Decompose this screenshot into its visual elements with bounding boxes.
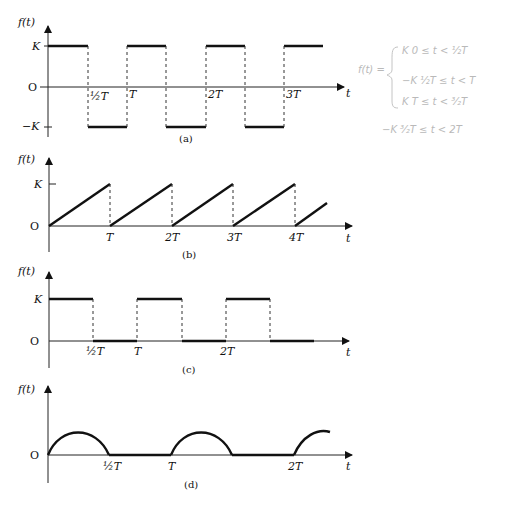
y-axis-label: f(t) <box>17 265 35 278</box>
x-axis-label: t <box>346 460 351 473</box>
y-axis-label: f(t) <box>17 153 35 166</box>
y-axis-label: f(t) <box>17 16 35 29</box>
neg-k-level-label: −K <box>22 120 40 133</box>
tick-label: 2T <box>164 231 181 244</box>
sawtooth-signal <box>49 184 327 226</box>
panel-a: f(t) t O K −K ½T T 2T 3T (a) <box>17 16 351 144</box>
annotation-lhs: f(t) = <box>358 64 385 75</box>
annotation-line: −K ³⁄₂T ≤ t < 2T <box>382 124 463 135</box>
origin-label: O <box>30 335 39 348</box>
panel-b: f(t) t O K T 2T 3T 4T (b) <box>17 153 352 260</box>
x-axis-label: t <box>346 232 351 245</box>
x-axis-label: t <box>346 346 351 359</box>
rectified-sine-signal <box>48 431 330 455</box>
k-level-label: K <box>33 178 43 191</box>
tick-label: ½T <box>86 345 106 358</box>
tick-label: ½T <box>103 460 123 473</box>
tick-label: 2T <box>287 460 304 473</box>
k-level-label: K <box>33 293 43 306</box>
panel-c: f(t) t O K ½T T 2T (c) <box>17 265 351 375</box>
tick-label: 2T <box>207 88 224 101</box>
annotation-line: K 0 ≤ t < ½T <box>402 45 468 56</box>
handwritten-annotation: f(t) = K 0 ≤ t < ½T −K ½T ≤ t < T K T ≤ … <box>358 45 476 135</box>
tick-label: 3T <box>227 231 243 244</box>
tick-label: T <box>134 345 143 358</box>
k-level-label: K <box>31 40 41 53</box>
transition-dashes <box>93 299 270 341</box>
annotation-line: −K ½T ≤ t < T <box>402 75 476 86</box>
origin-label: O <box>28 81 37 94</box>
figure-canvas: f(t) t O K −K ½T T 2T 3T (a) <box>0 0 516 516</box>
origin-label: O <box>30 449 39 462</box>
tick-label: T <box>129 88 138 101</box>
x-axis-label: t <box>346 87 351 100</box>
tick-label: T <box>168 460 177 473</box>
panel-caption: (b) <box>182 249 196 260</box>
panel-caption: (a) <box>179 133 193 144</box>
brace-icon <box>387 47 398 108</box>
tick-label: 3T <box>286 88 302 101</box>
annotation-line: K T ≤ t < ³⁄₂T <box>402 96 468 107</box>
panel-d: f(t) t O ½T T 2T (d) <box>17 383 352 490</box>
tick-label: ½T <box>90 90 110 103</box>
tick-label: 4T <box>288 231 305 244</box>
panel-caption: (c) <box>182 364 196 375</box>
origin-label: O <box>30 220 39 233</box>
panel-caption: (d) <box>184 479 198 490</box>
y-axis-label: f(t) <box>17 383 35 396</box>
tick-label: 2T <box>219 345 236 358</box>
tick-label: T <box>106 231 115 244</box>
